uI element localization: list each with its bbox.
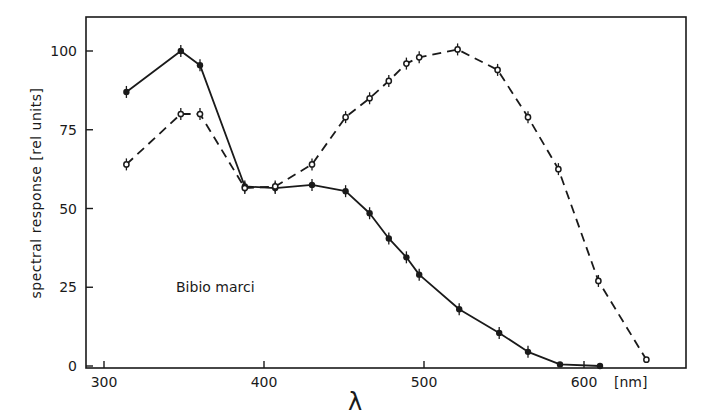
data-point <box>178 111 183 116</box>
x-tick-label: 300 <box>91 374 118 390</box>
data-point <box>417 55 422 60</box>
data-point <box>596 278 601 283</box>
data-point <box>386 235 392 241</box>
y-axis-title: spectral response [rel units] <box>28 88 44 299</box>
data-point <box>242 185 247 190</box>
series-dashed <box>124 43 649 362</box>
data-point <box>367 96 372 101</box>
species-annotation: Bibio marci <box>176 279 255 295</box>
data-point <box>273 184 278 189</box>
y-tick-label: 75 <box>59 122 77 138</box>
series-line <box>126 49 646 359</box>
data-point <box>556 167 561 172</box>
x-axis-ticks: 300400500600 <box>91 361 598 390</box>
data-point <box>309 182 315 188</box>
series-solid <box>123 45 603 369</box>
data-point <box>644 357 649 362</box>
data-point <box>386 78 391 83</box>
data-point <box>178 48 184 54</box>
data-point <box>343 115 348 120</box>
plot-frame <box>86 17 686 368</box>
data-point <box>495 67 500 72</box>
data-point <box>403 254 409 260</box>
data-point <box>557 361 563 367</box>
x-axis-title: λ <box>348 388 362 416</box>
spectral-response-chart: 0255075100 300400500600 spectral respons… <box>0 0 710 420</box>
data-point <box>525 349 531 355</box>
x-tick-label: 500 <box>411 374 438 390</box>
data-point <box>404 61 409 66</box>
data-point <box>366 210 372 216</box>
data-series <box>123 43 649 369</box>
data-point <box>342 188 348 194</box>
x-tick-label: 600 <box>571 374 598 390</box>
data-point <box>123 89 129 95</box>
x-unit-label: [nm] <box>614 374 647 390</box>
data-point <box>597 363 603 369</box>
data-point <box>496 330 502 336</box>
data-point <box>197 62 203 68</box>
data-point <box>197 111 202 116</box>
y-tick-label: 25 <box>59 279 77 295</box>
y-tick-label: 100 <box>50 43 77 59</box>
data-point <box>124 162 129 167</box>
data-point <box>455 47 460 52</box>
y-tick-label: 0 <box>68 358 77 374</box>
data-point <box>416 271 422 277</box>
x-tick-label: 400 <box>251 374 278 390</box>
series-line <box>126 51 600 366</box>
y-tick-label: 50 <box>59 201 77 217</box>
data-point <box>525 115 530 120</box>
data-point <box>309 162 314 167</box>
data-point <box>456 306 462 312</box>
